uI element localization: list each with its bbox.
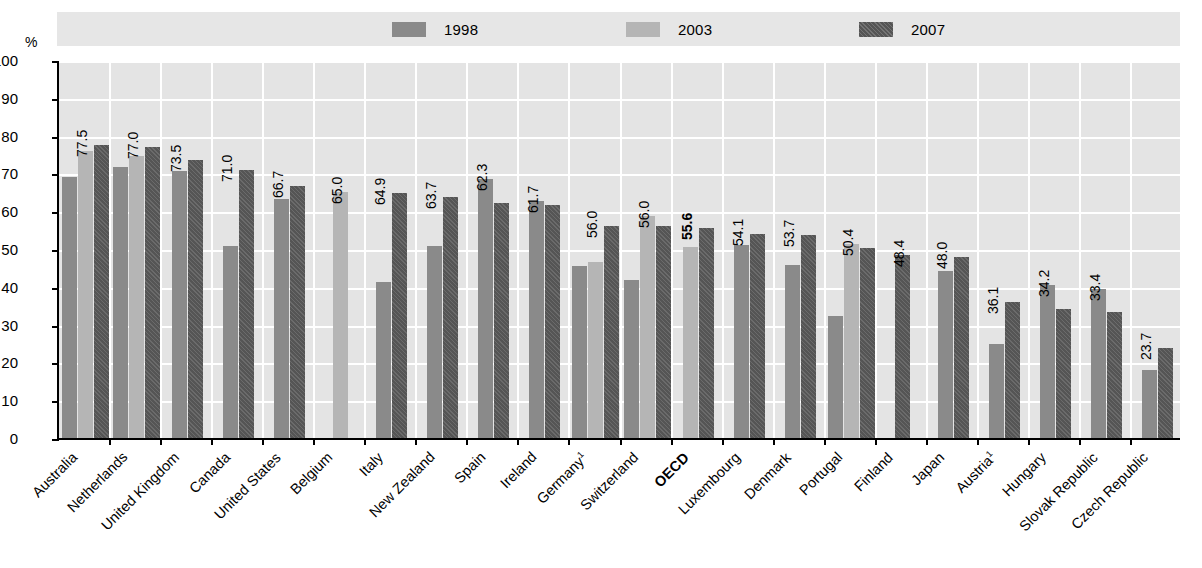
bar-2007[interactable] [1107,312,1122,438]
x-axis-label-belgium: Belgium [287,449,335,497]
bar-1998[interactable] [223,246,238,438]
legend-item-2007[interactable]: 2007 [859,21,945,37]
legend-item-1998[interactable]: 1998 [392,21,478,37]
y-tick-mark [52,250,59,252]
bar-1998[interactable] [785,265,800,438]
bar-2003[interactable] [78,151,93,438]
bar-group: 66.7 [263,62,314,438]
bar-1998[interactable] [828,316,843,438]
y-tick-mark [52,401,59,403]
chart-legend: 199820032007 [57,12,1180,46]
legend-label-1998: 1998 [444,22,478,37]
x-axis-label-ireland: Ireland [497,449,540,492]
bar-group: 36.1 [978,62,1029,438]
bar-2007[interactable] [604,226,619,438]
bar-2003[interactable] [129,156,144,438]
y-axis-tick-label: 90 [0,90,18,107]
y-axis-tick-label: 100 [0,52,18,69]
bar-1998[interactable] [376,282,391,438]
bar-2007[interactable] [860,248,875,439]
bar-2007[interactable] [801,235,816,438]
bar-1998[interactable] [113,167,128,438]
bar-value-label: 63.7 [423,182,439,209]
bar-2007[interactable] [290,186,305,438]
plot-area: 77.577.073.571.066.765.064.963.762.361.7… [57,62,1180,440]
bar-2007[interactable] [545,205,560,438]
y-tick-mark [52,61,59,63]
bar-2007[interactable] [239,170,254,438]
bar-1998[interactable] [427,246,442,438]
bar-1998[interactable] [734,245,749,438]
y-axis-tick-label: 80 [0,128,18,145]
bar-value-label: 77.5 [74,130,90,157]
chart-canvas: 199820032007 % 77.577.073.571.066.765.06… [0,0,1202,568]
footnote-marker: 1 [984,449,995,460]
y-tick-mark [52,326,59,328]
bar-2007[interactable] [1158,348,1173,438]
bar-1998[interactable] [62,177,77,438]
bar-group: 63.7 [416,62,467,438]
bar-value-label: 71.0 [219,154,235,181]
y-tick-mark [52,363,59,365]
y-axis-tick-label: 10 [0,392,18,409]
bar-2003[interactable] [588,262,603,438]
bar-2007[interactable] [699,228,714,438]
bar-1998[interactable] [1091,289,1106,438]
bar-2007[interactable] [1005,302,1020,438]
bar-1998[interactable] [624,280,639,438]
bar-value-label: 54.1 [730,218,746,245]
y-tick-mark [52,439,59,441]
bar-2003[interactable] [640,216,655,438]
footnote-marker: 1 [575,449,586,460]
bar-1998[interactable] [478,179,493,438]
x-axis-label-canada: Canada [186,449,233,496]
bar-group: 56.0 [569,62,620,438]
bar-value-label: 77.0 [125,132,141,159]
x-axis-label-hungary: Hungary [999,449,1049,499]
legend-item-2003[interactable]: 2003 [626,21,712,37]
bar-1998[interactable] [274,199,289,438]
legend-swatch-2007 [859,22,893,37]
bar-group: 73.5 [161,62,212,438]
bar-value-label: 36.1 [985,286,1001,313]
bar-group: 48.0 [927,62,978,438]
bar-2007[interactable] [94,145,109,438]
bar-2007[interactable] [656,226,671,438]
bar-value-label: 48.0 [934,241,950,268]
bar-2007[interactable] [494,203,509,438]
legend-swatch-1998 [392,22,426,37]
bar-2003[interactable] [333,192,348,438]
bar-2007[interactable] [750,234,765,438]
bar-value-label: 64.9 [372,177,388,204]
x-axis-label-australia: Australia [29,449,80,500]
bar-2007[interactable] [188,160,203,438]
bar-2007[interactable] [1056,309,1071,438]
x-axis-label-denmark: Denmark [741,449,794,502]
bar-group: 50.4 [825,62,876,438]
legend-label-2007: 2007 [911,22,945,37]
y-tick-mark [52,212,59,214]
bar-1998[interactable] [529,201,544,438]
bar-1998[interactable] [172,171,187,438]
bar-2007[interactable] [145,147,160,438]
bar-group: 53.7 [774,62,825,438]
bar-1998[interactable] [938,271,953,438]
bar-2007[interactable] [954,257,969,438]
bar-1998[interactable] [1040,285,1055,438]
bar-group: 62.3 [467,62,518,438]
bar-value-label: 62.3 [474,164,490,191]
bar-group: 48.4 [876,62,927,438]
bar-2007[interactable] [443,197,458,438]
bar-2003[interactable] [844,244,859,438]
x-axis-label-austria: Austria1 [952,449,999,496]
bar-value-label: 61.7 [525,186,541,213]
y-tick-mark [52,174,59,176]
bar-2003[interactable] [683,247,698,438]
bar-1998[interactable] [989,344,1004,439]
x-axis-labels: AustraliaNetherlandsUnited KingdomCanada… [57,443,1180,568]
bar-1998[interactable] [1142,370,1157,438]
bar-1998[interactable] [572,266,587,438]
bar-group: 65.0 [314,62,365,438]
bar-2007[interactable] [895,255,910,438]
bar-2007[interactable] [392,193,407,438]
